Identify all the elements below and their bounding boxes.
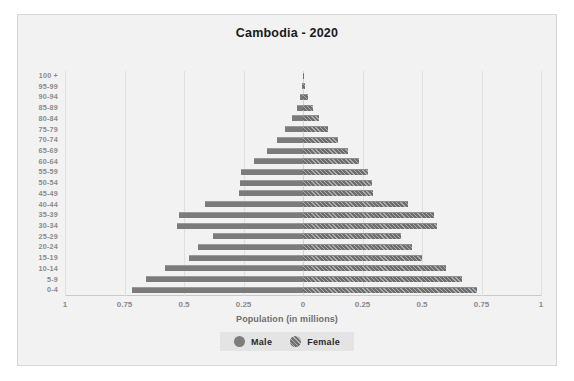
x-tick-label: 0.25	[355, 300, 371, 309]
bar-male[interactable]	[132, 287, 303, 293]
bar-row	[65, 275, 541, 286]
bar-male[interactable]	[254, 158, 303, 164]
gridline	[541, 71, 542, 296]
legend-label-female: Female	[307, 337, 340, 347]
bar-male[interactable]	[165, 265, 303, 271]
bar-male[interactable]	[267, 148, 303, 154]
bar-female[interactable]	[303, 223, 437, 229]
y-tick-label: 55-59	[39, 167, 58, 178]
y-tick-label: 45-49	[39, 189, 58, 200]
bar-female[interactable]	[303, 212, 434, 218]
bar-female[interactable]	[303, 137, 338, 143]
bar-row	[65, 114, 541, 125]
bar-row	[65, 92, 541, 103]
x-axis-tick-labels: 10.750.50.2500.250.50.751	[65, 300, 541, 314]
y-tick-label: 5-9	[47, 275, 58, 286]
bar-row	[65, 242, 541, 253]
x-tick-label: 1	[539, 300, 543, 309]
x-tick-label: 0.75	[474, 300, 490, 309]
bar-female[interactable]	[303, 255, 422, 261]
y-tick-label: 30-34	[39, 221, 58, 232]
y-tick-label: 35-39	[39, 210, 58, 221]
bar-female[interactable]	[303, 126, 328, 132]
bar-female[interactable]	[303, 276, 462, 282]
bar-female[interactable]	[303, 115, 319, 121]
bar-row	[65, 285, 541, 296]
y-tick-label: 80-84	[39, 114, 58, 125]
bar-female[interactable]	[303, 180, 372, 186]
bar-female[interactable]	[303, 94, 308, 100]
bar-row	[65, 157, 541, 168]
chart-title: Cambodia - 2020	[18, 26, 556, 40]
y-tick-label: 95-99	[39, 82, 58, 93]
y-tick-label: 60-64	[39, 157, 58, 168]
x-tick-label: 0.5	[416, 300, 427, 309]
circle-marker-female-icon	[290, 336, 301, 347]
bar-row	[65, 125, 541, 136]
legend-item-male[interactable]: Male	[234, 336, 272, 347]
bar-female[interactable]	[303, 287, 477, 293]
y-tick-label: 0-4	[47, 285, 58, 296]
bar-female[interactable]	[303, 158, 359, 164]
bar-male[interactable]	[277, 137, 303, 143]
bar-row	[65, 189, 541, 200]
bar-male[interactable]	[198, 244, 303, 250]
bar-female[interactable]	[303, 105, 313, 111]
y-tick-label: 75-79	[39, 125, 58, 136]
y-axis-tick-labels: 100 +95-9990-9485-8980-8475-7970-7465-69…	[18, 71, 62, 296]
bar-row	[65, 82, 541, 93]
x-axis-title: Population (in millions)	[18, 314, 556, 324]
x-tick-label: 0.25	[236, 300, 252, 309]
bar-row	[65, 103, 541, 114]
x-tick-label: 0	[301, 300, 305, 309]
bar-male[interactable]	[241, 169, 303, 175]
bar-male[interactable]	[189, 255, 303, 261]
y-tick-label: 25-29	[39, 232, 58, 243]
bar-male[interactable]	[240, 180, 303, 186]
legend-item-female[interactable]: Female	[290, 336, 340, 347]
y-tick-label: 50-54	[39, 178, 58, 189]
bar-male[interactable]	[292, 115, 303, 121]
bar-row	[65, 221, 541, 232]
y-tick-label: 70-74	[39, 135, 58, 146]
plot-area	[65, 71, 541, 296]
bar-female[interactable]	[303, 201, 408, 207]
bar-male[interactable]	[146, 276, 303, 282]
y-tick-label: 20-24	[39, 242, 58, 253]
x-tick-label: 1	[63, 300, 67, 309]
bar-row	[65, 178, 541, 189]
bar-row	[65, 232, 541, 243]
bar-male[interactable]	[213, 233, 303, 239]
y-tick-label: 65-69	[39, 146, 58, 157]
bar-female[interactable]	[303, 265, 446, 271]
bar-row	[65, 146, 541, 157]
circle-marker-male-icon	[234, 336, 245, 347]
bar-row	[65, 264, 541, 275]
y-tick-label: 15-19	[39, 253, 58, 264]
bar-male[interactable]	[239, 190, 303, 196]
legend-label-male: Male	[251, 337, 272, 347]
bar-row	[65, 167, 541, 178]
bar-female[interactable]	[303, 169, 368, 175]
y-tick-label: 85-89	[39, 103, 58, 114]
bar-female[interactable]	[303, 190, 373, 196]
bar-female[interactable]	[303, 244, 412, 250]
x-tick-label: 0.5	[178, 300, 189, 309]
bar-row	[65, 210, 541, 221]
y-tick-label: 40-44	[39, 200, 58, 211]
bar-female[interactable]	[303, 148, 348, 154]
y-tick-label: 10-14	[39, 264, 58, 275]
bar-female[interactable]	[303, 233, 401, 239]
y-tick-label: 90-94	[39, 92, 58, 103]
bar-male[interactable]	[285, 126, 303, 132]
bar-male[interactable]	[179, 212, 303, 218]
bar-row	[65, 71, 541, 82]
bar-male[interactable]	[177, 223, 303, 229]
bar-row	[65, 253, 541, 264]
y-tick-label: 100 +	[39, 71, 58, 82]
chart-container: Cambodia - 2020 100 +95-9990-9485-8980-8…	[17, 14, 557, 366]
bar-row	[65, 135, 541, 146]
chart-legend: Male Female	[220, 332, 354, 351]
bar-female[interactable]	[303, 83, 305, 89]
bar-male[interactable]	[205, 201, 303, 207]
